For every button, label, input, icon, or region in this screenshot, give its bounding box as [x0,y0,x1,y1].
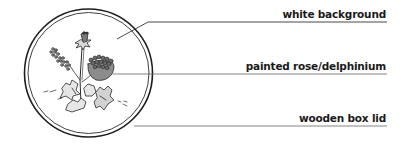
rose-head [88,55,114,80]
top-bud [75,32,91,50]
callout-label-painted-rose: painted rose/delphinium [246,60,386,72]
leader-lines [113,22,387,126]
dotted-cluster [50,48,70,71]
flower-painting [44,32,127,112]
leaves [60,80,114,112]
callout-label-white-background: white background [282,8,386,20]
box-lid-circle [25,9,153,137]
leader-white-background [117,22,387,39]
callout-label-wooden-box-lid: wooden box lid [299,112,386,124]
